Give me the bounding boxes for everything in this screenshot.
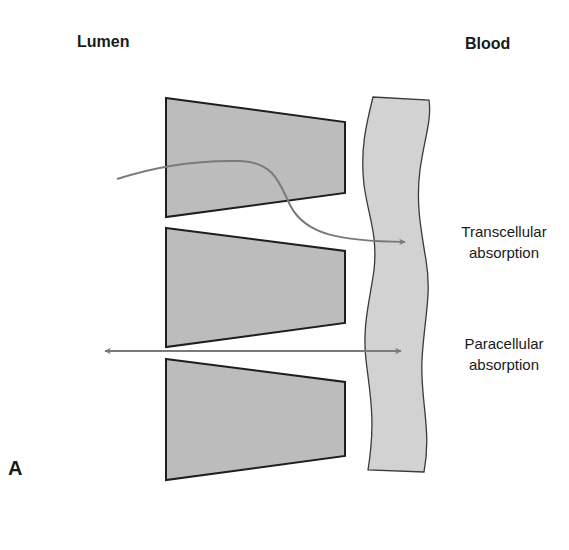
blood-label: Blood (465, 35, 510, 53)
diagram-canvas (0, 0, 569, 550)
transcellular-label-line2: absorption (439, 242, 569, 263)
blood-vessel (363, 97, 430, 472)
paracellular-label-line1: Paracellular (439, 333, 569, 354)
transcellular-label: Transcellular absorption (439, 221, 569, 263)
paracellular-label-line2: absorption (439, 354, 569, 375)
epithelial-cell-2 (166, 228, 345, 347)
epithelial-cell-3 (166, 359, 345, 480)
lumen-label: Lumen (77, 33, 129, 51)
transcellular-label-line1: Transcellular (439, 221, 569, 242)
paracellular-label: Paracellular absorption (439, 333, 569, 375)
panel-label: A (8, 457, 22, 480)
epithelial-cell-1 (166, 98, 345, 217)
